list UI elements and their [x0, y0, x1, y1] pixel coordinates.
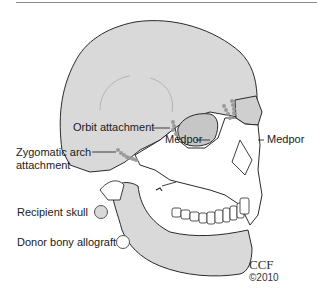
- legend-recipient-swatch: [94, 205, 108, 219]
- credit-org: CCF: [249, 258, 279, 272]
- credit: CCF ©2010: [249, 258, 279, 284]
- legend-donor-swatch: [116, 235, 130, 249]
- credit-year: ©2010: [249, 272, 279, 284]
- label-orbit-attachment: Orbit attachment: [73, 121, 154, 134]
- label-medpor-nasal: Medpor: [267, 133, 304, 146]
- legend-donor-label: Donor bony allograft: [17, 236, 116, 249]
- label-medpor-orbit: Medpor: [165, 133, 202, 146]
- legend-recipient-label: Recipient skull: [17, 206, 88, 219]
- label-zygomatic-line1: Zygomatic arch: [16, 146, 91, 159]
- label-zygomatic-line2: attachment: [16, 159, 70, 172]
